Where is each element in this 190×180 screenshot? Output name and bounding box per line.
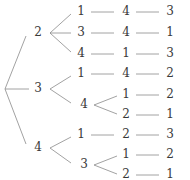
tree-node-l4: 2 [164,147,176,161]
edge [94,156,117,165]
tree-node-l2: 1 [75,127,87,141]
tree-node-l3: 4 [120,4,132,18]
tree-node-l4: 3 [164,46,176,60]
edge [94,105,117,114]
tree-node-l3: 1 [120,46,132,60]
edge [50,137,71,148]
tree-node-l2: 3 [78,157,90,171]
edge [50,148,71,163]
tree-node-l4: 1 [164,25,176,39]
tree-node-l1: 4 [32,140,44,154]
tree-node-l3: 1 [120,87,132,101]
tree-node-l2: 4 [75,46,87,60]
tree-node-l2: 1 [75,66,87,80]
tree-node-l3: 4 [120,25,132,39]
tree-node-l2: 3 [75,25,87,39]
edge [50,76,71,89]
tree-diagram: 2 3 4 1 3 4 1 4 1 3 4 4 1 4 1 2 2 1 2 3 … [0,0,190,180]
edge [94,165,117,174]
tree-node-l4: 1 [164,167,176,180]
tree-node-l1: 3 [32,81,44,95]
edge [50,14,71,33]
tree-node-l3: 4 [120,66,132,80]
edge [5,89,26,144]
edge [94,96,117,105]
edge [50,89,71,103]
tree-edges [0,0,190,180]
tree-node-l3: 2 [120,127,132,141]
tree-node-l3: 1 [120,147,132,161]
tree-node-l4: 1 [164,107,176,121]
tree-node-l1: 2 [32,25,44,39]
tree-node-l2: 1 [75,4,87,18]
edge [50,33,71,52]
edge [5,36,26,89]
tree-node-l4: 3 [164,127,176,141]
tree-node-l3: 2 [120,107,132,121]
tree-node-l4: 3 [164,4,176,18]
tree-node-l2: 4 [78,97,90,111]
tree-node-l4: 2 [164,66,176,80]
tree-node-l3: 2 [120,167,132,180]
tree-node-l4: 2 [164,87,176,101]
